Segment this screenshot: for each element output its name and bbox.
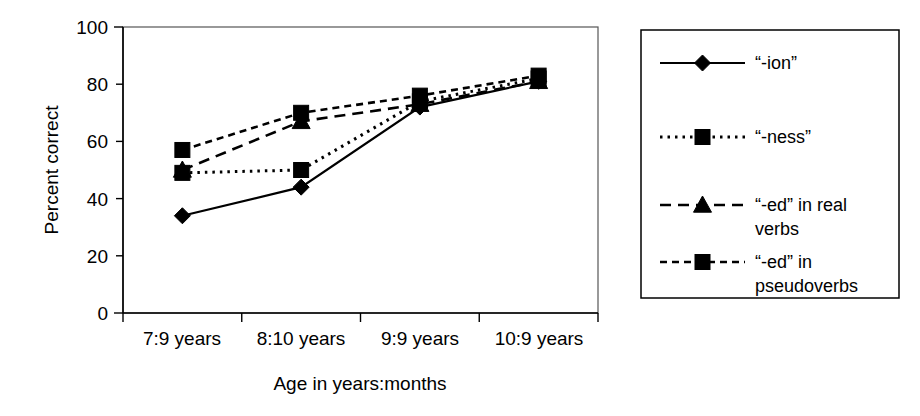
x-tick-label-2: 9:9 years [381, 328, 459, 349]
legend-label-line2: verbs [755, 219, 799, 239]
data-series-layer [173, 68, 547, 224]
series-group [175, 71, 546, 180]
legend-label: “-ed” in real [755, 195, 847, 215]
x-tick-label-0: 7:9 years [143, 328, 221, 349]
data-point-marker-square [412, 88, 427, 103]
y-tick-label-40: 40 [87, 189, 108, 210]
data-point-marker-square [531, 68, 546, 83]
x-axis-tick-labels: 7:9 years 8:10 years 9:9 years 10:9 year… [143, 328, 583, 349]
line-chart: 100 80 60 40 20 0 Percent correct 7:9 ye… [0, 0, 920, 416]
y-tick-label-20: 20 [87, 246, 108, 267]
y-tick-label-100: 100 [76, 17, 108, 38]
series-group [173, 72, 547, 177]
legend-label-line2: pseudoverbs [755, 276, 858, 296]
legend-label: “-ness” [755, 127, 811, 147]
y-tick-label-0: 0 [97, 303, 108, 324]
data-point-marker-square [695, 255, 710, 270]
y-tick-label-60: 60 [87, 131, 108, 152]
x-axis-title: Age in years:months [273, 373, 446, 394]
chart-figure: 100 80 60 40 20 0 Percent correct 7:9 ye… [0, 0, 920, 416]
x-tick-label-1: 8:10 years [257, 328, 346, 349]
legend-label: “-ion” [755, 53, 797, 73]
y-axis-tick-labels: 100 80 60 40 20 0 [76, 17, 108, 324]
series-line [182, 81, 538, 170]
data-point-marker-square [175, 142, 190, 157]
plot-area-border [123, 27, 598, 313]
x-axis-ticks [123, 313, 598, 322]
data-point-marker-diamond [174, 208, 190, 224]
x-tick-label-3: 10:9 years [495, 328, 584, 349]
data-point-marker-square [294, 163, 309, 178]
legend-label: “-ed” in [755, 252, 812, 272]
y-axis-ticks [114, 27, 123, 313]
data-point-marker-diamond [293, 179, 309, 195]
y-axis-title: Percent correct [41, 105, 62, 235]
series-group [174, 73, 546, 223]
data-point-marker-square [695, 130, 710, 145]
y-tick-label-80: 80 [87, 74, 108, 95]
data-point-marker-square [294, 105, 309, 120]
